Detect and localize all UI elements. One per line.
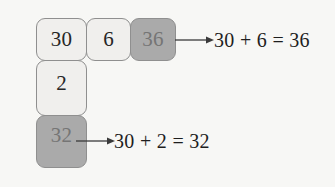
number-box-30: 30 — [36, 18, 87, 61]
number-box-32-label: 32 — [51, 125, 72, 146]
equation-top: 30 + 6 = 36 — [214, 30, 310, 50]
number-box-6-label: 6 — [103, 29, 114, 50]
number-box-36-label: 36 — [142, 29, 163, 50]
number-box-2-label: 2 — [56, 73, 67, 94]
equation-bottom: 30 + 2 = 32 — [114, 131, 210, 151]
number-box-36: 36 — [130, 18, 176, 61]
number-box-30-label: 30 — [51, 29, 72, 50]
arrow-right-icon — [175, 35, 215, 45]
arrow-right-icon — [76, 136, 116, 146]
number-box-2: 2 — [36, 60, 87, 116]
diagram-canvas: 30 6 36 2 32 30 + 6 = 36 30 + 2 = 32 — [0, 0, 335, 187]
number-box-6: 6 — [86, 18, 131, 61]
